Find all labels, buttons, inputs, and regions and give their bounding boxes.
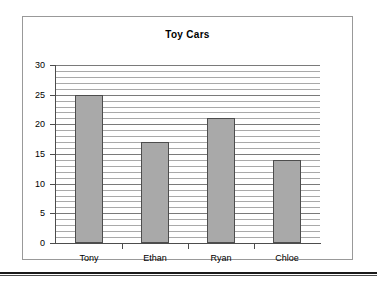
bar-series	[56, 65, 320, 243]
x-axis-label-chloe: Chloe	[254, 253, 320, 263]
bar-ethan[interactable]	[141, 142, 168, 243]
x-axis-label-tony: Tony	[56, 253, 122, 263]
y-axis-label-10: 10	[21, 179, 45, 189]
y-axis-label-5: 5	[21, 208, 45, 218]
plot-area	[56, 65, 320, 243]
y-axis-label-0: 0	[21, 238, 45, 248]
x-axis-labels: Tony Ethan Ryan Chloe	[56, 253, 320, 263]
chart-title: Toy Cars	[23, 29, 352, 40]
y-axis-label-20: 20	[21, 119, 45, 129]
bar-ryan[interactable]	[207, 118, 234, 243]
y-axis-line	[55, 65, 56, 244]
bar-chloe[interactable]	[273, 160, 300, 243]
bar-tony[interactable]	[75, 95, 102, 243]
x-axis-tick-1	[122, 244, 123, 249]
x-axis-tick-3	[254, 244, 255, 249]
document-separator-rule	[0, 272, 377, 276]
x-axis-label-ethan: Ethan	[122, 253, 188, 263]
y-axis-label-15: 15	[21, 149, 45, 159]
bar-slot-ethan	[122, 65, 188, 243]
y-axis-label-25: 25	[21, 90, 45, 100]
y-axis-label-30: 30	[21, 60, 45, 70]
bar-slot-tony	[56, 65, 122, 243]
bar-slot-ryan	[188, 65, 254, 243]
bar-slot-chloe	[254, 65, 320, 243]
x-axis-tick-2	[188, 244, 189, 249]
chart-frame: Toy Cars 30 25 20 15 10 5 0	[22, 16, 353, 260]
x-axis-label-ryan: Ryan	[188, 253, 254, 263]
